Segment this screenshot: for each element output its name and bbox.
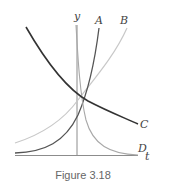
curve-a [15, 28, 99, 153]
exponential-curves-diagram: y A B C D t [0, 0, 178, 189]
curve-b-label: B [119, 14, 128, 27]
figure-caption: Figure 3.18 [0, 169, 166, 181]
y-axis-label: y [73, 10, 81, 23]
curve-c [26, 27, 138, 124]
curve-c-label: C [140, 118, 149, 131]
t-axis-label: t [145, 150, 150, 163]
curve-b [15, 28, 127, 143]
curve-a-label: A [94, 14, 103, 27]
figure-3-18: y A B C D t Figure 3.18 [0, 0, 178, 189]
